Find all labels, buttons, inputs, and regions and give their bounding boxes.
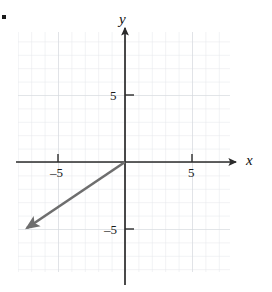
tick-label-x-negative-five: –5 xyxy=(50,166,63,179)
coordinate-plane-figure: y x –5 5 5 –5 xyxy=(0,0,272,292)
y-axis-label: y xyxy=(119,12,126,27)
tick-label-x-positive-five: 5 xyxy=(188,166,195,179)
tick-label-y-positive-five: 5 xyxy=(110,89,117,102)
grid-background xyxy=(18,32,230,272)
tick-label-y-negative-five: –5 xyxy=(104,223,117,236)
coordinate-plane-svg xyxy=(0,0,272,292)
x-axis-label: x xyxy=(246,153,253,168)
